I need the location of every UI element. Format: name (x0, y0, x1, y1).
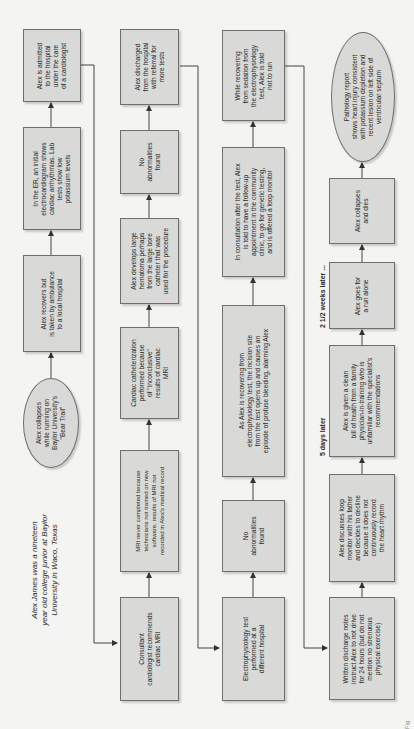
node-text: Alex discusses loop monitor with his fat… (338, 477, 386, 579)
text-line: tests show low (56, 130, 64, 228)
text-line: Pathology report (343, 37, 351, 157)
text-line: catheter that was (154, 220, 162, 302)
text-line: Alex goes for (354, 265, 362, 327)
node-text: While recovering from sedation from the … (234, 33, 274, 119)
node-no-abnormalities-2: No abnormalities found (222, 500, 285, 572)
node-text: Written discharge notes instruct Alex to… (342, 600, 382, 698)
text-line: with referral for (150, 31, 158, 103)
node-text: No abnormalities found (138, 132, 162, 192)
text-line: mention no strenuous (366, 600, 374, 698)
node-text: Consultant cardiologist recommends cardi… (138, 600, 162, 698)
node-text: Alex is given a clean bill of health fro… (342, 348, 382, 454)
text-line: Alex is admitted (36, 31, 44, 101)
text-line: Alex collapses (354, 180, 362, 242)
text-line: not to run (266, 33, 274, 119)
text-line: and decides to decline (354, 477, 362, 579)
text-line: for 24 hours (but do not (358, 600, 366, 698)
text-line: While recovering (234, 33, 242, 119)
text-line: found (154, 132, 162, 192)
text-line: cardiac arrhythmias. Lab (48, 130, 56, 228)
text-line: test, Alex is told (258, 33, 266, 119)
node-collapse: Alex collapses while running on Baylor U… (23, 378, 79, 468)
text-line: results of cardiac (154, 329, 162, 417)
text-line: In the ER, an initial (32, 130, 40, 228)
node-consultation: In consultation after the test, Alex is … (222, 147, 285, 277)
node-mri: MRI never completed because technicians … (120, 450, 179, 572)
node-written-discharge: Written discharge notes instruct Alex to… (329, 597, 395, 700)
intro-line: Alex James was a nineteen (30, 514, 40, 626)
text-line: appointment in the community (250, 150, 258, 274)
text-line: Alex discusses loop (338, 477, 346, 579)
text-line: more tests (158, 31, 166, 103)
intro-line: year old college junior at Baylor (40, 514, 50, 626)
text-line: Baylor University's (51, 381, 59, 465)
node-ambulance: Alex recovers but is taken by ambulance … (23, 255, 81, 352)
text-line: Cardiac catheterization (130, 329, 138, 417)
text-line: from the large bore (146, 220, 154, 302)
text-line: and dies (362, 180, 370, 242)
node-cath: Cardiac catheterization performed becaus… (120, 327, 179, 419)
node-text: In consultation after the test, Alex is … (234, 150, 274, 274)
node-clean-bill: Alex is given a clean bill of health fro… (329, 345, 395, 457)
node-text: MRI never completed because technicians … (134, 452, 166, 570)
node-text: Electrophysiology test performed at a di… (242, 600, 266, 698)
text-line: used for the procedure (162, 220, 170, 302)
text-line: while running on (43, 381, 51, 465)
text-line: electrophysiology test, the incision sit… (246, 309, 254, 473)
text-line: performed because (138, 329, 146, 417)
text-line: abnormalities (250, 503, 258, 569)
node-consultant: Consultant cardiologist recommends cardi… (120, 597, 179, 701)
text-line: technicians not trained on new (142, 452, 150, 570)
text-line: Electrophysiology test (242, 600, 250, 698)
text-line: Alex discharged (134, 31, 142, 103)
text-line: performed at a (250, 600, 258, 698)
text-line: episode of profuse bleeding, alarming Al… (262, 309, 270, 473)
text-line: from the test opens up and causes an (254, 309, 262, 473)
text-line: because it does not (362, 477, 370, 579)
text-line: a run alone (362, 265, 370, 327)
node-text: No abnormalities found (242, 503, 266, 569)
text-line: from the hospital (142, 31, 150, 103)
text-line: potassium levels (64, 130, 72, 228)
node-text: Pathology report shows heart injury cons… (343, 37, 383, 157)
text-line: to a local hospital (56, 258, 64, 350)
text-line: MRI never completed because (134, 452, 142, 570)
node-text: Cardiac catheterization performed becaus… (130, 329, 170, 417)
text-line: As Alex is recovering from (238, 309, 246, 473)
text-line: instruct Alex to not drive (350, 600, 358, 698)
node-text: Alex collapses and dies (354, 180, 370, 242)
text-line: Alex collapses (35, 381, 43, 465)
node-no-abnormalities-1: No abnormalities found (120, 130, 179, 194)
text-line: hematoma perhaps (138, 220, 146, 302)
node-text: Alex is admitted to the hospital under t… (36, 31, 68, 101)
node-collapses-dies: Alex collapses and dies (329, 178, 395, 244)
text-line: from sedation from (242, 33, 250, 119)
text-line: recommendations (374, 348, 382, 454)
node-er: In the ER, an initial electrocardiogram … (23, 127, 81, 230)
time-label-2-5-weeks: 2 1/2 weeks later ... (319, 265, 326, 328)
text-line: recent lesion on left side of (367, 37, 375, 157)
text-line: Consultant (138, 600, 146, 698)
text-line: recorded in Alex's medical record (158, 452, 166, 570)
node-text: As Alex is recovering from electrophysio… (238, 309, 270, 473)
text-line: of a cardiologist (60, 31, 68, 101)
text-line: the electrophysiology (250, 33, 258, 119)
text-line: continuously record (370, 477, 378, 579)
text-line: the heart rhythm (378, 477, 386, 579)
text-line: bill of health from a family (350, 348, 358, 454)
text-line: clinic, to go for genetic testing, (258, 150, 266, 274)
node-text: Alex goes for a run alone (354, 265, 370, 327)
text-line: Alex recovers but (40, 258, 48, 350)
node-sedation: While recovering from sedation from the … (222, 30, 285, 121)
node-pathology: Pathology report shows heart injury cons… (331, 32, 395, 162)
text-line: with potassium depletion and (359, 37, 367, 157)
text-line: Alex develops large (130, 220, 138, 302)
text-line: physician-in-training who is (358, 348, 366, 454)
text-line: to the hospital (44, 31, 52, 101)
node-electrophysiology: Electrophysiology test performed at a di… (222, 597, 285, 701)
node-loop-monitor: Alex discusses loop monitor with his fat… (329, 474, 395, 582)
text-line: of "inconclusive" (146, 329, 154, 417)
text-line: Alex is given a clean (342, 348, 350, 454)
text-line: monitor with his father (346, 477, 354, 579)
text-line: different hospital (258, 600, 266, 698)
